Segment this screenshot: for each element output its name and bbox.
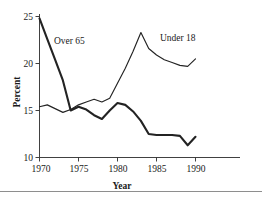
y-axis-title: Percent [12, 76, 22, 108]
chart-figure: 25 20 15 10 1970 1975 1980 1985 1990 Per… [0, 0, 262, 197]
y-tick-label-10: 10 [24, 153, 34, 163]
x-tick-label-1990: 1990 [187, 164, 206, 174]
footer-divider [0, 191, 262, 192]
line-chart-canvas: 25 20 15 10 1970 1975 1980 1985 1990 Per… [0, 0, 262, 197]
x-tick-label-1985: 1985 [148, 164, 167, 174]
x-axis-title: Year [113, 181, 133, 191]
x-tick-label-1975: 1975 [70, 164, 89, 174]
x-tick-label-1970: 1970 [32, 164, 51, 174]
y-tick-label-20: 20 [24, 59, 34, 69]
y-tick-label-25: 25 [24, 12, 34, 22]
series-annotation-over-65: Over 65 [54, 36, 85, 46]
series-annotation-under-18: Under 18 [160, 33, 196, 43]
y-tick-label-15: 15 [24, 106, 34, 116]
x-tick-label-1980: 1980 [109, 164, 128, 174]
